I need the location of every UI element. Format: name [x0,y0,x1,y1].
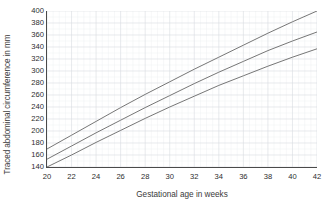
x-axis-line [46,167,317,168]
y-tick-label: 140 [0,163,44,171]
plot-area [47,11,317,167]
y-tick-label: 260 [0,91,44,99]
data-curves [47,11,317,167]
y-tick-label: 400 [0,7,44,15]
y-tick-label: 160 [0,151,44,159]
y-tick-label: 240 [0,103,44,111]
chart-container: Traced abdominal circumference in mm 140… [0,0,332,209]
y-tick-label: 280 [0,79,44,87]
y-axis-line [46,11,47,168]
x-axis-tick-labels: 202224262830323436384042 [0,172,332,184]
x-axis-label: Gestational age in weeks [47,190,317,199]
y-tick-label: 320 [0,55,44,63]
y-tick-label: 200 [0,127,44,135]
y-tick-label: 380 [0,19,44,27]
y-tick-label: 220 [0,115,44,123]
y-tick-label: 300 [0,67,44,75]
x-tick-label: 42 [302,172,332,181]
y-tick-label: 340 [0,43,44,51]
y-tick-label: 360 [0,31,44,39]
y-tick-label: 180 [0,139,44,147]
